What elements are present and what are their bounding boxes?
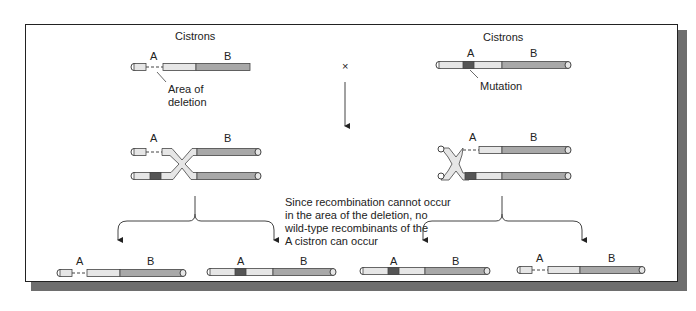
cistron-a-stub: [134, 64, 146, 71]
brace-arrow-right-outer: [502, 214, 582, 240]
deletion-pointer: [157, 72, 166, 82]
brace-arrow-left-inner: [195, 214, 274, 240]
cistron-a-label: A: [390, 255, 398, 267]
chromosome-end-cap: [565, 62, 571, 69]
area-of-deletion-label-2: deletion: [168, 96, 207, 108]
cistron-a-label: A: [150, 50, 158, 62]
chromosome-end-cap: [565, 173, 571, 180]
cistrons-label-left: Cistrons: [175, 30, 216, 42]
chromosome-end-cap: [255, 149, 261, 156]
top-left-chromosome-deletion: Cistrons A B Area of deletion: [131, 30, 250, 108]
mutation-block: [388, 268, 399, 275]
cistron-b-segment: [120, 270, 183, 277]
cistron-b-segment: [196, 64, 250, 71]
cistron-a-label: A: [76, 255, 84, 267]
explanation-line-2: in the area of the deletion, no: [285, 209, 428, 221]
mutation-block: [235, 269, 246, 276]
cistron-b-segment: [197, 173, 258, 180]
top-right-chromosome-mutation: Cistrons A B Mutation: [436, 31, 571, 92]
chromosome-end-cap: [639, 267, 645, 274]
cistron-a-segment: [548, 267, 580, 274]
brace-arrow-left-outer: [118, 196, 195, 240]
explanation-text: Since recombination cannot occur in the …: [284, 196, 451, 247]
cistron-b-segment: [273, 269, 333, 276]
cistron-a-label: A: [237, 255, 245, 267]
area-of-deletion-label-1: Area of: [168, 83, 204, 95]
progeny-1-deletion: A B: [57, 255, 186, 277]
mutation-block: [150, 173, 161, 180]
cistron-b-label: B: [608, 252, 615, 264]
cistron-a-label: A: [469, 131, 477, 143]
recombination-diagram: Cistrons A B Area of deletion Cistrons A…: [0, 0, 696, 311]
cross-symbol: ×: [342, 60, 348, 72]
chromosome-end-cap: [565, 147, 571, 154]
cistron-a-stub: [60, 270, 72, 277]
cistron-b-segment: [197, 149, 258, 156]
crossover-left: A B: [131, 132, 261, 180]
cistron-a-segment: [479, 147, 502, 154]
mutation-block: [463, 62, 474, 69]
cistron-a-stub: [134, 149, 146, 156]
cistron-b-segment: [580, 267, 642, 274]
crossover-x: [158, 149, 197, 180]
cistron-b-label: B: [224, 50, 231, 62]
explanation-line-1: Since recombination cannot occur: [285, 196, 451, 208]
cistron-a-label: A: [536, 252, 544, 264]
cistron-a-segment: [87, 270, 120, 277]
cistron-b-label: B: [147, 255, 154, 267]
mutation-pointer: [470, 70, 478, 78]
cistron-b-label: B: [530, 131, 537, 143]
cistron-b-segment: [502, 62, 568, 69]
explanation-line-3: wild-type recombinants of the: [284, 222, 428, 234]
explanation-line-4: A cistron can occur: [285, 235, 378, 247]
chromosome-end-cap: [180, 270, 186, 277]
mutation-label: Mutation: [480, 80, 522, 92]
progeny-2-mutation: A B: [207, 255, 336, 276]
progeny-4-deletion: A B: [517, 252, 645, 274]
progeny-3-mutation: A B: [360, 255, 490, 275]
cistron-b-segment: [502, 147, 568, 154]
chromosome-end-cap: [438, 173, 444, 179]
cistron-b-segment: [502, 173, 568, 180]
mutation-block: [465, 173, 476, 180]
cistron-b-label: B: [452, 255, 459, 267]
cistron-a-stub: [520, 267, 532, 274]
cistron-b-segment: [425, 268, 487, 275]
chromosome-end-cap: [255, 173, 261, 180]
chromosome-end-cap: [438, 146, 444, 152]
chromosome-end-cap: [484, 268, 490, 275]
crossover-right: A B: [438, 131, 571, 180]
cistron-b-label: B: [530, 47, 537, 59]
cistron-a-segment: [163, 64, 196, 71]
chromosome-end-cap: [330, 269, 336, 276]
cistron-b-label: B: [224, 132, 231, 144]
cistron-a-label: A: [467, 47, 475, 59]
cistron-a-label: A: [150, 132, 158, 144]
cistron-b-label: B: [300, 255, 307, 267]
cistrons-label-right: Cistrons: [483, 31, 524, 43]
